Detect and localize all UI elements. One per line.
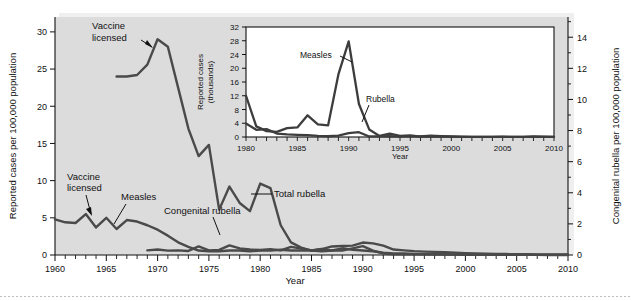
main-yaxis-right-ticklabel: 12 — [577, 64, 587, 74]
main-yaxis-right-ticklabel: 8 — [577, 126, 582, 136]
inset-xaxis-title: Year — [392, 152, 409, 161]
main-yaxis-right-ticklabel: 0 — [577, 250, 582, 260]
main-xaxis-ticklabel: 1980 — [250, 264, 270, 274]
main-xaxis-ticklabel: 1965 — [96, 264, 116, 274]
inset-yaxis-ticklabel: 16 — [230, 78, 239, 87]
annotation-rubella-inset: Rubella — [366, 94, 395, 104]
inset-yaxis-title-line2: (thousands) — [206, 61, 215, 104]
main-yaxis-left-title: Reported cases per 100,000 population — [7, 53, 18, 219]
main-yaxis-right-ticklabel: 4 — [577, 188, 582, 198]
main-yaxis-right-ticklabel: 2 — [577, 219, 582, 229]
main-xaxis-ticklabel: 1960 — [45, 264, 65, 274]
main-yaxis-left-ticklabel: 0 — [42, 250, 47, 260]
inset-yaxis-title-line1: Reported cases — [196, 54, 205, 110]
inset-yaxis-ticklabel: 28 — [230, 37, 239, 46]
annotation-congenital-rubella: Congenital rubella — [164, 205, 241, 216]
main-xaxis-ticklabel: 1995 — [404, 264, 424, 274]
inset-xaxis-ticklabel: 1980 — [237, 144, 255, 153]
inset-yaxis-ticklabel: 4 — [235, 119, 240, 128]
main-xaxis-ticklabel: 1970 — [148, 264, 168, 274]
main-xaxis-ticklabel: 1975 — [199, 264, 219, 274]
annotation-vaccine-licensed-bottom-line2: licensed — [67, 182, 102, 193]
annotation-total-rubella: Total rubella — [274, 188, 326, 199]
main-xaxis-title: Year — [285, 275, 304, 286]
main-yaxis-left-ticklabel: 15 — [37, 139, 47, 149]
main-yaxis-right-ticklabel: 6 — [577, 157, 582, 167]
annotation-measles-main: Measles — [121, 191, 157, 202]
main-yaxis-right-ticklabel: 14 — [577, 33, 587, 43]
inset-xaxis-ticklabel: 2000 — [442, 144, 460, 153]
annotation-vaccine-licensed-top-line2: licensed — [92, 32, 127, 43]
inset-xaxis-ticklabel: 1990 — [340, 144, 358, 153]
main-xaxis-ticklabel: 2000 — [455, 264, 475, 274]
figure-root: 1960196519701975198019851990199520002005… — [0, 0, 632, 301]
annotation-vaccine-licensed-top-line1: Vaccine — [92, 20, 125, 31]
main-yaxis-left-ticklabel: 5 — [42, 213, 47, 223]
main-yaxis-left-ticklabel: 30 — [37, 27, 47, 37]
main-xaxis-ticklabel: 2010 — [558, 264, 578, 274]
inset-yaxis-ticklabel: 0 — [235, 133, 240, 142]
main-xaxis-ticklabel: 1990 — [353, 264, 373, 274]
inset-yaxis-ticklabel: 8 — [235, 106, 240, 115]
bottom-divider — [0, 296, 632, 297]
inset-yaxis-ticklabel: 24 — [230, 51, 239, 60]
main-xaxis-ticklabel: 2005 — [507, 264, 527, 274]
inset-xaxis-ticklabel: 2005 — [494, 144, 512, 153]
inset-yaxis-ticklabel: 20 — [230, 64, 239, 73]
chart-canvas: 1960196519701975198019851990199520002005… — [0, 0, 632, 301]
inset-xaxis-ticklabel: 2010 — [545, 144, 563, 153]
inset-xaxis-ticklabel: 1985 — [288, 144, 306, 153]
annotation-measles-inset: Measles — [300, 50, 332, 60]
main-yaxis-right-title: Congenital rubella per 100,000 populatio… — [610, 48, 621, 224]
annotation-vaccine-licensed-bottom-line1: Vaccine — [67, 171, 100, 182]
main-yaxis-left-ticklabel: 20 — [37, 102, 47, 112]
main-yaxis-left-ticklabel: 10 — [37, 176, 47, 186]
main-xaxis-ticklabel: 1985 — [301, 264, 321, 274]
inset-panel — [246, 27, 554, 137]
main-yaxis-left-ticklabel: 25 — [37, 64, 47, 74]
main-yaxis-right-ticklabel: 10 — [577, 95, 587, 105]
inset-yaxis-ticklabel: 12 — [230, 92, 239, 101]
inset-yaxis-ticklabel: 32 — [230, 23, 239, 32]
